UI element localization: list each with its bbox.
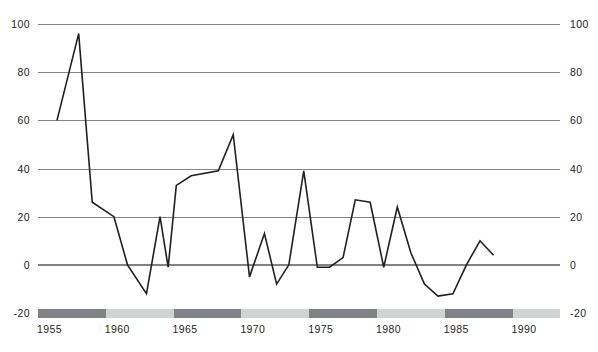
x-tick-label-1965: 1965 [173, 324, 198, 335]
x-tick-label-1975: 1975 [308, 324, 333, 335]
x-tick-label-1990: 1990 [512, 324, 537, 335]
x-band-segment-0 [38, 309, 106, 318]
line-series-1 [57, 34, 494, 297]
x-tick-label-1970: 1970 [240, 324, 265, 335]
line-series-layer [0, 0, 598, 352]
x-band-segment-1 [106, 309, 174, 318]
x-band-segment-2 [174, 309, 242, 318]
x-band-segment-3 [241, 309, 309, 318]
x-band-segment-7 [513, 309, 560, 318]
x-band-segment-6 [445, 309, 513, 318]
x-tick-label-1985: 1985 [444, 324, 469, 335]
x-band-segment-5 [377, 309, 445, 318]
x-band-segment-4 [309, 309, 377, 318]
x-tick-label-1980: 1980 [376, 324, 401, 335]
x-tick-label-1955: 1955 [37, 324, 62, 335]
x-tick-label-1960: 1960 [105, 324, 130, 335]
chart-container: 100806040200-20 100806040200-20 19551960… [0, 0, 598, 352]
